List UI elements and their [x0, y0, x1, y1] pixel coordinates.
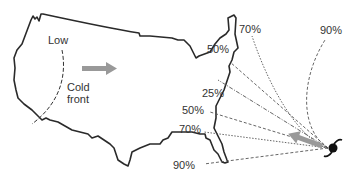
track-90-lower [204, 148, 328, 164]
prob-label-70-top: 70% [239, 24, 261, 35]
map-drawing [0, 0, 349, 179]
track-90-top [307, 40, 328, 148]
track-70-top [252, 36, 328, 148]
cold-front-line [32, 50, 64, 124]
track-50-upper [230, 62, 328, 148]
hurricane-probability-diagram: Low Cold front 70% 90% 50% 25% 50% 70% 9… [0, 0, 349, 179]
prob-label-90-lower: 90% [173, 160, 195, 171]
prob-label-50-lower: 50% [182, 105, 204, 116]
cold-front-label-line1: Cold [67, 82, 90, 93]
low-label: Low [48, 35, 68, 46]
prob-label-25: 25% [202, 88, 224, 99]
track-25 [218, 80, 328, 148]
prob-label-70-lower: 70% [179, 124, 201, 135]
front-motion-arrow [82, 62, 117, 75]
cold-front-label-line2: front [67, 94, 89, 105]
prob-label-90-top: 90% [320, 25, 342, 36]
prob-label-50-upper: 50% [207, 44, 229, 55]
